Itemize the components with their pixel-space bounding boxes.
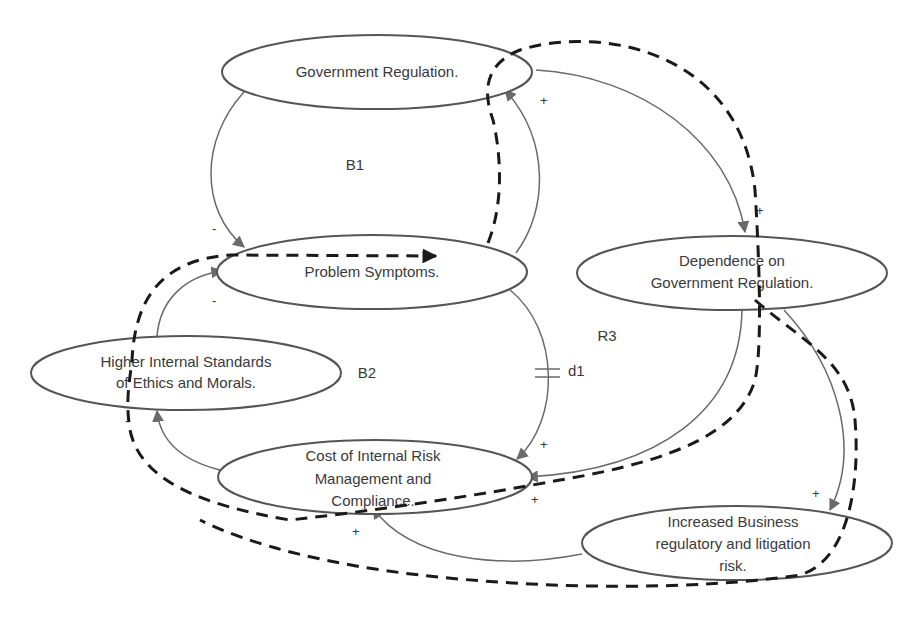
loop-label-r3: R3 — [597, 327, 616, 344]
label-government-regulation: Government Regulation. — [296, 63, 459, 80]
sign-dependence-to-risk: + — [812, 486, 820, 501]
link-dependence-to-cost — [527, 310, 742, 477]
node-higher-internal-standards — [31, 336, 341, 410]
label-risk-line3: risk. — [719, 557, 747, 574]
label-ethics-line2: of Ethics and Morals. — [116, 374, 256, 391]
label-dependence-line1: Dependence on — [679, 252, 785, 269]
sign-dependence-to-cost: + — [531, 492, 539, 507]
label-cost-line1: Cost of Internal Risk — [305, 447, 441, 464]
link-cost-to-ethics — [157, 411, 220, 470]
sign-problem-to-govreg: + — [540, 93, 548, 108]
node-dependence-on-government-regulation — [577, 236, 887, 310]
delay-label-d1: d1 — [568, 362, 585, 379]
dashed-loop-path — [128, 41, 856, 586]
label-risk-line2: regulatory and litigation — [655, 535, 810, 552]
link-problem-to-govreg — [505, 90, 539, 253]
label-ethics-line1: Higher Internal Standards — [101, 353, 272, 370]
sign-problem-to-cost: + — [540, 437, 548, 452]
causal-loop-diagram: Government Regulation. Problem Symptoms.… — [0, 0, 921, 620]
sign-ethics-to-problem: - — [212, 293, 216, 308]
label-cost-line2: Management and — [315, 470, 432, 487]
link-govreg-to-dependence — [536, 70, 745, 232]
loop-label-b1: B1 — [346, 156, 364, 173]
label-dependence-line2: Government Regulation. — [651, 274, 814, 291]
link-problem-to-cost — [510, 290, 548, 459]
label-risk-line1: Increased Business — [668, 513, 799, 530]
loop-label-b2: B2 — [358, 364, 376, 381]
link-dependence-to-risk — [784, 310, 844, 510]
sign-risk-to-cost: + — [352, 524, 360, 539]
link-risk-to-cost — [373, 508, 582, 561]
sign-govreg-to-problem: - — [212, 221, 216, 236]
label-problem-symptoms: Problem Symptoms. — [304, 263, 439, 280]
